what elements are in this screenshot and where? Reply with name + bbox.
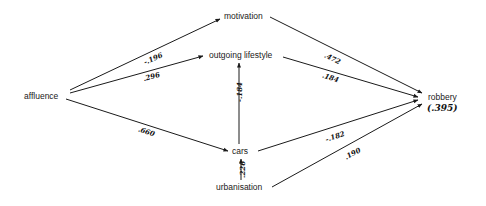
edge-outgoing-lifestyle-robbery — [283, 57, 418, 97]
edge-motivation-robbery — [270, 17, 422, 93]
node-affluence: affluence — [24, 92, 58, 101]
edge-urbanisation-robbery — [272, 104, 422, 187]
robbery-r-squared: (.395) — [427, 104, 457, 113]
edge-affluence-outgoing-lifestyle — [70, 56, 203, 93]
node-outgoing-lifestyle: outgoing lifestyle — [209, 51, 272, 60]
node-urbanisation: urbanisation — [216, 183, 262, 192]
node-cars: cars — [232, 147, 248, 156]
edge-cars-robbery — [258, 100, 418, 151]
node-motivation: motivation — [224, 12, 263, 21]
node-robbery: robbery — [428, 93, 457, 102]
edge-affluence-cars — [66, 99, 228, 151]
coef-urbanisation-cars: .226 — [239, 161, 246, 178]
coef-cars-outgoing-lifestyle: -.184 — [236, 82, 243, 102]
